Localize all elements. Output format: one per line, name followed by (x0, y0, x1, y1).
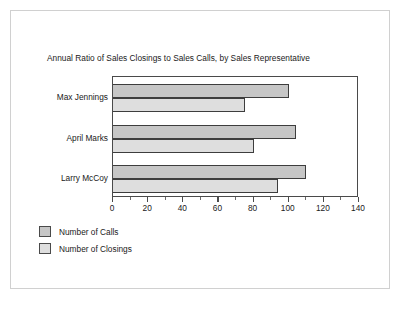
x-tick-minor (165, 197, 166, 200)
x-tick-major (288, 197, 289, 202)
legend-swatch-icon (39, 226, 51, 237)
x-tick-minor (235, 197, 236, 200)
bar-group (113, 165, 357, 193)
bar-calls (113, 125, 296, 139)
chart-page: Annual Ratio of Sales Closings to Sales … (0, 0, 406, 309)
x-tick-label-80: 80 (248, 203, 257, 213)
x-tick-major (147, 197, 148, 202)
category-label-3: Larry McCoy (2, 173, 108, 183)
bar-closings (113, 179, 278, 193)
bar-group (113, 125, 357, 153)
legend-swatch-icon (39, 243, 51, 254)
x-tick-minor (340, 197, 341, 200)
bar-group (113, 84, 357, 112)
category-label-1: Max Jennings (2, 92, 108, 102)
x-tick-label-140: 140 (351, 203, 365, 213)
bar-calls (113, 165, 306, 179)
legend-item[interactable]: Number of Closings (39, 240, 132, 257)
bar-closings (113, 98, 245, 112)
x-tick-major (182, 197, 183, 202)
x-tick-minor (270, 197, 271, 200)
x-tick-minor (130, 197, 131, 200)
x-tick-major (323, 197, 324, 202)
x-tick-major (112, 197, 113, 202)
x-tick-label-20: 20 (143, 203, 152, 213)
x-tick-label-60: 60 (213, 203, 222, 213)
x-tick-major (253, 197, 254, 202)
x-axis: 020406080100120140 (112, 197, 358, 219)
x-tick-minor (200, 197, 201, 200)
bar-calls (113, 84, 289, 98)
chart-title: Annual Ratio of Sales Closings to Sales … (47, 53, 377, 63)
x-tick-label-0: 0 (110, 203, 115, 213)
legend-item[interactable]: Number of Calls (39, 223, 132, 240)
bar-closings (113, 139, 254, 153)
chart-legend: Number of CallsNumber of Closings (39, 223, 132, 257)
x-tick-major (358, 197, 359, 202)
legend-label: Number of Closings (59, 244, 132, 254)
x-tick-label-100: 100 (281, 203, 295, 213)
category-axis-labels: Max JenningsApril MarksLarry McCoy (0, 76, 108, 197)
x-tick-major (217, 197, 218, 202)
plot-area (112, 76, 358, 197)
legend-label: Number of Calls (59, 227, 118, 237)
x-tick-minor (305, 197, 306, 200)
x-tick-label-120: 120 (316, 203, 330, 213)
bars-container (113, 77, 357, 196)
x-tick-label-40: 40 (178, 203, 187, 213)
category-label-2: April Marks (2, 133, 108, 143)
